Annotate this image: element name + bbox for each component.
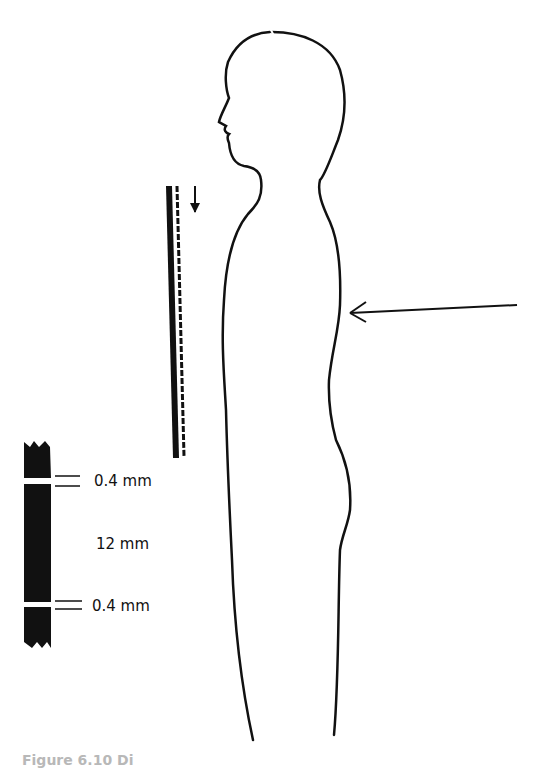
film-width-label: 12 mm [96, 535, 149, 553]
arrow-left-icon [350, 302, 517, 322]
gap-label-top: 0.4 mm [94, 472, 152, 490]
human-profile-back [272, 32, 350, 735]
moving-grid-bars [166, 186, 184, 458]
gap-label-bottom: 0.4 mm [92, 597, 150, 615]
figure-caption: Figure 6.10 Di [22, 752, 133, 768]
human-profile-outline [219, 32, 270, 740]
film-strip [24, 441, 82, 648]
arrow-down-icon [190, 186, 200, 213]
